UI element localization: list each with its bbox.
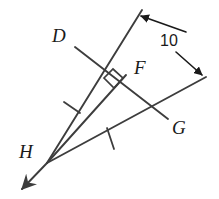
segment-dg [75, 47, 168, 119]
vertex-label-g: G [172, 118, 186, 137]
tick-mark-hd [64, 102, 80, 113]
tick-mark-hg [107, 128, 114, 149]
geometry-canvas [0, 0, 219, 199]
ray-below-h [22, 163, 47, 189]
geometry-figure: D F G H 10 [0, 0, 219, 199]
dimension-arrow-lower [176, 52, 202, 75]
dimension-arrow-upper [141, 16, 186, 32]
vertex-label-h: H [19, 142, 33, 161]
dimension-label-10: 10 [160, 33, 178, 49]
vertex-label-d: D [52, 26, 66, 45]
vertex-label-f: F [134, 58, 146, 77]
